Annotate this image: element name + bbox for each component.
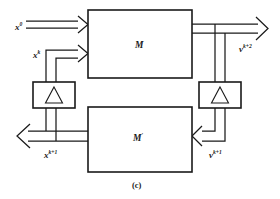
edge-Mp-to-output [17,124,88,148]
block-label-M-prime: M′ [133,133,143,144]
edge-M-to-output [192,17,268,40]
figure-canvas: M M′ x0 xk vk+2 xk+1 vk+1 (c) [0,0,280,199]
delay-element-right[interactable] [199,82,241,108]
figure-caption: (c) [132,180,141,190]
edge-Mp-to-delay-left [46,108,56,141]
edge-xk-to-M [46,45,88,82]
delay-element-left[interactable] [33,82,75,108]
signal-label-vk1: vk+1 [209,150,222,160]
signal-label-vk2: vk+2 [239,44,252,54]
edge-x0-to-M [26,16,88,33]
block-label-M: M [135,40,143,51]
edge-delay-right-to-Mp [192,108,225,146]
signal-label-xk: xk [33,50,40,60]
diagram-svg [0,0,280,199]
signal-label-x0: x0 [15,22,22,32]
signal-label-xk1: xk+1 [44,150,57,160]
